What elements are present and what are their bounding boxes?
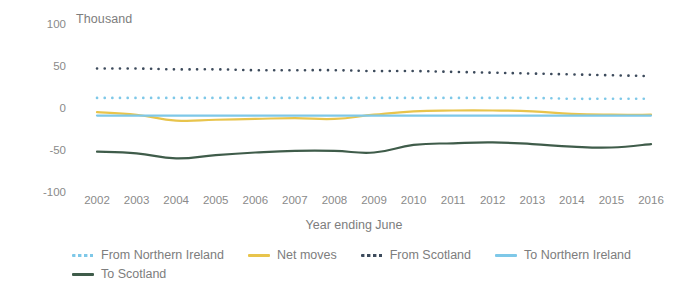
x-axis-tick-label: 2005 [203, 194, 229, 206]
legend-line-icon [72, 268, 94, 280]
x-axis-tick-label: 2014 [559, 194, 585, 206]
legend-item[interactable]: From Northern Ireland [72, 248, 224, 262]
series-line [97, 142, 651, 158]
x-axis-tick-label: 2007 [282, 194, 308, 206]
migration-line-chart: Thousand 100500-50-100 20022003200420052… [0, 0, 700, 305]
legend-item[interactable]: To Scotland [72, 267, 166, 281]
y-axis-tick-label: 0 [6, 102, 66, 114]
series-line [97, 98, 651, 99]
legend-dotted-line-icon [361, 249, 383, 261]
x-axis-title-text: Year ending June [298, 218, 403, 232]
y-axis-tick-label: 100 [6, 18, 66, 30]
legend-item-label: To Scotland [101, 267, 166, 281]
legend-dotted-line-icon [72, 249, 94, 261]
x-axis-tick-label: 2011 [441, 194, 466, 206]
x-axis-tick-label: 2013 [519, 194, 545, 206]
x-axis-tick-label: 2003 [124, 194, 150, 206]
x-axis-tick-label: 2006 [242, 194, 268, 206]
x-axis: 2002200320042005200620072008200920102011… [0, 194, 700, 214]
x-axis-tick-label: 2009 [361, 194, 387, 206]
legend-item-label: From Scotland [390, 248, 471, 262]
plot-svg [70, 24, 678, 192]
x-axis-tick-label: 2012 [480, 194, 506, 206]
x-axis-tick-label: 2010 [401, 194, 427, 206]
x-axis-tick-label: 2004 [163, 194, 189, 206]
legend-item-label: To Northern Ireland [524, 248, 631, 262]
legend-item-label: Net moves [277, 248, 337, 262]
series-line [97, 68, 651, 76]
y-axis-tick-label: 50 [6, 60, 66, 72]
x-axis-tick-label: 2008 [322, 194, 348, 206]
plot-area [70, 24, 678, 192]
legend-item[interactable]: From Scotland [361, 248, 471, 262]
x-axis-tick-label: 2002 [84, 194, 110, 206]
x-axis-tick-label: 2016 [638, 194, 664, 206]
legend-item-label: From Northern Ireland [101, 248, 224, 262]
y-axis-tick-label: -50 [6, 144, 66, 156]
chart-legend: From Northern IrelandNet movesFrom Scotl… [72, 248, 686, 281]
legend-item[interactable]: Net moves [248, 248, 337, 262]
x-axis-title: Year ending June [0, 218, 700, 232]
legend-line-icon [248, 249, 270, 261]
legend-line-icon [495, 249, 517, 261]
x-axis-tick-label: 2015 [599, 194, 625, 206]
legend-item[interactable]: To Northern Ireland [495, 248, 631, 262]
